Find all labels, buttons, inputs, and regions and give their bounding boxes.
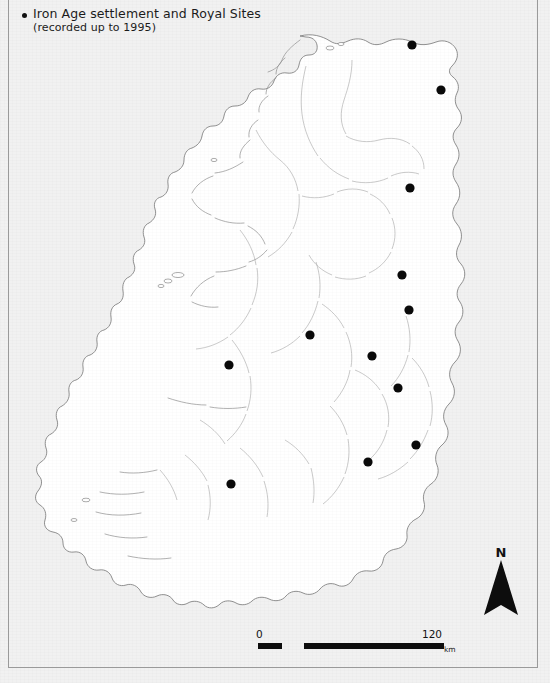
- legend-entry: Iron Age settlement and Royal Sites: [22, 6, 261, 21]
- scale-segment: [304, 643, 328, 649]
- north-arrow: N: [478, 545, 524, 625]
- north-arrow-label: N: [478, 545, 524, 560]
- legend-line-2: (recorded up to 1995): [33, 21, 261, 35]
- scale-max-label: 120: [422, 628, 442, 640]
- scale-bar-track: [258, 643, 444, 649]
- scale-segment: [398, 643, 444, 649]
- map-figure: Iron Age settlement and Royal Sites (rec…: [0, 0, 550, 683]
- legend: Iron Age settlement and Royal Sites (rec…: [22, 6, 261, 35]
- filled-circle-icon: [22, 13, 27, 18]
- scale-segment: [258, 643, 282, 649]
- scale-segment: [328, 643, 398, 649]
- scale-bar: 0 120 km: [256, 630, 456, 658]
- legend-line-1: Iron Age settlement and Royal Sites: [33, 6, 261, 21]
- figure-border: [8, 0, 538, 668]
- scale-min-label: 0: [256, 628, 263, 640]
- scale-unit-label: km: [444, 645, 456, 654]
